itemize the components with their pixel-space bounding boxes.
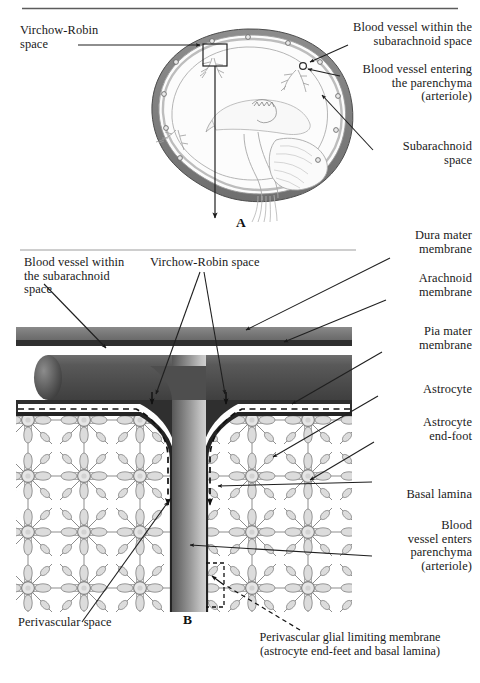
panel-b-letter: B <box>183 612 192 628</box>
figure-root: Virchow-Robin space Blood vessel within … <box>0 0 480 683</box>
label-perivascular-space: Perivascular space <box>18 616 168 630</box>
label-virchow-robin-space-b: Virchow-Robin space <box>150 256 310 270</box>
label-vessel-entering-parenchyma-a: Blood vessel entering the parenchyma (ar… <box>287 63 472 104</box>
label-dura-mater-membrane: Dura mater membrane <box>362 229 472 256</box>
label-vessel-within-subarachnoid-a: Blood vessel within the subarachnoid spa… <box>287 21 472 48</box>
arachnoid-membrane-band <box>16 340 352 346</box>
label-vessel-within-subarachnoid-b: Blood vessel within the subarachnoid spa… <box>24 256 149 297</box>
label-astrocyte: Astrocyte <box>362 383 472 397</box>
panel-a-letter: A <box>236 215 246 231</box>
astrocyte-mesh-left <box>12 410 182 616</box>
label-blood-vessel-enters-parenchyma: Blood vessel enters parenchyma (arteriol… <box>372 519 472 573</box>
label-subarachnoid-space-a: Subarachnoid space <box>332 140 472 167</box>
label-pia-mater-membrane: Pia mater membrane <box>362 325 472 352</box>
panel-b-anatomy <box>12 327 360 630</box>
label-astrocyte-end-foot: Astrocyte end-foot <box>362 416 472 443</box>
label-virchow-robin-space-a: Virchow-Robin space <box>20 24 150 51</box>
label-arachnoid-membrane: Arachnoid membrane <box>362 272 472 299</box>
panel-a-brain <box>152 29 353 222</box>
dura-mater-band <box>16 327 352 340</box>
blood-vessel-end-cap <box>34 355 62 400</box>
caption-perivascular-glial-limiting-membrane: Perivascular glial limiting membrane (as… <box>222 630 478 658</box>
label-basal-lamina: Basal lamina <box>362 488 472 502</box>
astrocyte-mesh-right <box>200 410 360 616</box>
